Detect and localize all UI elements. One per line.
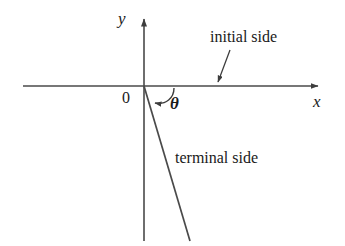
- initial-side-pointer-arrow: [218, 50, 230, 82]
- y-axis-label: y: [118, 10, 126, 27]
- initial-side-label: initial side: [210, 29, 277, 45]
- origin-label: 0: [122, 90, 130, 106]
- terminal-side-label: terminal side: [175, 150, 258, 166]
- diagram-canvas: [0, 0, 345, 246]
- x-axis-label: x: [313, 93, 321, 110]
- theta-angle-label: θ: [170, 95, 179, 112]
- angle-standard-position-figure: y x 0 θ initial side terminal side: [0, 0, 345, 246]
